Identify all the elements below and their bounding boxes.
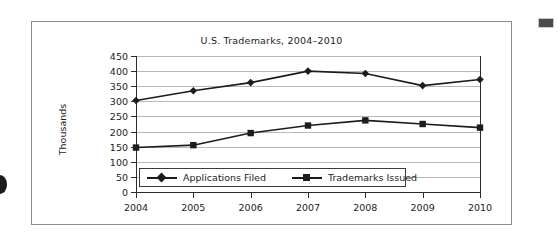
y-axis-tick-labels: 050100150200250300350400450	[82, 22, 128, 226]
y-tick-mark-300	[131, 101, 136, 102]
x-tick-label-2008: 2008	[335, 202, 395, 213]
x-tick-mark-2009	[423, 193, 424, 198]
x-tick-mark-2004	[136, 193, 137, 198]
x-tick-label-2010: 2010	[450, 202, 510, 213]
y-tick-mark-100	[131, 162, 136, 163]
y-tick-label-200: 200	[84, 126, 128, 137]
data-point-applications-filed-2009	[419, 82, 427, 90]
legend-entry-1[interactable]: Trademarks Issued	[292, 169, 417, 186]
right-page-swatch-mark	[538, 18, 554, 28]
data-point-trademarks-issued-2010	[477, 124, 483, 130]
y-tick-mark-250	[131, 116, 136, 117]
legend-label-1: Trademarks Issued	[328, 172, 417, 183]
y-tick-mark-350	[131, 86, 136, 87]
data-point-trademarks-issued-2006	[247, 130, 253, 136]
x-tick-mark-2008	[365, 193, 366, 198]
y-tick-label-250: 250	[84, 111, 128, 122]
x-tick-mark-2005	[193, 193, 194, 198]
legend-marker-square-icon	[292, 172, 322, 184]
data-point-applications-filed-2005	[190, 87, 198, 95]
x-tick-mark-2007	[308, 193, 309, 198]
data-point-applications-filed-2008	[362, 70, 370, 78]
x-tick-label-2004: 2004	[106, 202, 166, 213]
data-point-trademarks-issued-2009	[419, 121, 425, 127]
x-tick-label-2005: 2005	[163, 202, 223, 213]
y-axis-title: Thousands	[57, 80, 68, 180]
x-tick-mark-2010	[480, 193, 481, 198]
x-tick-label-2007: 2007	[278, 202, 338, 213]
x-tick-mark-2006	[251, 193, 252, 198]
data-point-trademarks-issued-2007	[305, 122, 311, 128]
y-tick-label-50: 50	[84, 171, 128, 182]
data-point-trademarks-issued-2008	[362, 117, 368, 123]
legend-label-0: Applications Filed	[183, 172, 266, 183]
y-tick-label-350: 350	[84, 81, 128, 92]
y-tick-label-100: 100	[84, 156, 128, 167]
y-tick-mark-450	[131, 56, 136, 57]
data-point-applications-filed-2010	[476, 76, 484, 84]
y-tick-label-150: 150	[84, 141, 128, 152]
left-page-bullet-mark	[0, 175, 7, 194]
legend-marker-diamond-icon	[147, 172, 177, 184]
series-line-0	[136, 71, 480, 100]
y-tick-label-300: 300	[84, 96, 128, 107]
y-tick-mark-200	[131, 132, 136, 133]
x-tick-label-2006: 2006	[221, 202, 281, 213]
chart-legend: Applications FiledTrademarks Issued	[139, 168, 406, 187]
y-tick-mark-400	[131, 71, 136, 72]
data-point-applications-filed-2007	[304, 67, 312, 75]
y-tick-label-450: 450	[84, 51, 128, 62]
y-tick-label-400: 400	[84, 66, 128, 77]
y-tick-mark-150	[131, 147, 136, 148]
x-tick-label-2009: 2009	[393, 202, 453, 213]
y-tick-mark-50	[131, 177, 136, 178]
y-tick-label-0: 0	[84, 187, 128, 198]
chart-figure-frame: U.S. Trademarks, 2004–2010 Thousands 050…	[31, 21, 512, 225]
data-point-trademarks-issued-2005	[190, 142, 196, 148]
data-point-applications-filed-2006	[247, 79, 255, 87]
legend-entry-0[interactable]: Applications Filed	[147, 169, 266, 186]
